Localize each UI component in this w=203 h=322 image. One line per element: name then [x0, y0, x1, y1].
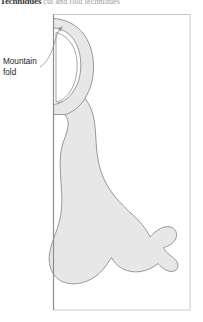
- seal-template-figure: [0, 0, 203, 322]
- mountain-fold-label: Mountain fold: [3, 57, 51, 78]
- mountain-fold-label-line2: fold: [3, 68, 51, 79]
- figure-page: Techniques cut and fold techniques Mount…: [0, 0, 203, 322]
- seal-body-shape: [49, 92, 178, 284]
- mountain-fold-label-line1: Mountain: [3, 57, 51, 68]
